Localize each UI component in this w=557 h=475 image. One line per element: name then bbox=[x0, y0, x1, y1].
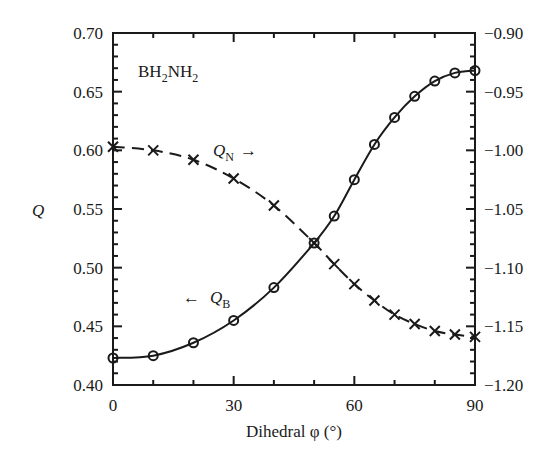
chart: 0.400.450.500.550.600.650.70 −1.20−1.15−… bbox=[0, 0, 557, 475]
molecule-part: NH bbox=[168, 62, 193, 81]
cross-marker-icon bbox=[369, 296, 379, 306]
arrow-right-icon: → bbox=[240, 141, 257, 160]
y-tick-label: 0.50 bbox=[73, 259, 103, 278]
y-right-tick-label: −1.20 bbox=[484, 376, 523, 395]
cross-marker-icon bbox=[269, 200, 279, 210]
series-label-qn: QN→ bbox=[213, 141, 257, 164]
y-right-tick-label: −1.00 bbox=[484, 141, 523, 160]
molecule-part: BH bbox=[138, 62, 162, 81]
y-right-tick-label: −0.95 bbox=[484, 83, 523, 102]
y-tick-label: 0.70 bbox=[73, 24, 103, 43]
cross-marker-icon bbox=[229, 173, 239, 183]
y-tick-label: 0.45 bbox=[73, 317, 103, 336]
x-tick-label: 60 bbox=[346, 396, 363, 415]
qb-main: Q bbox=[210, 288, 222, 307]
y-right-tick-label: −1.10 bbox=[484, 259, 523, 278]
x-tick-labels: 0306090 bbox=[109, 396, 484, 415]
series-line-q-n bbox=[113, 147, 475, 337]
y-tick-label: 0.65 bbox=[73, 83, 103, 102]
y-right-tick-label: −0.90 bbox=[484, 24, 523, 43]
molecule-subscript: 2 bbox=[192, 71, 198, 85]
cross-marker-icon bbox=[390, 310, 400, 320]
qb-sub: B bbox=[222, 297, 230, 311]
x-tick-label: 30 bbox=[225, 396, 242, 415]
y-right-tick-labels: −1.20−1.15−1.10−1.05−1.00−0.95−0.90 bbox=[484, 24, 523, 395]
plot-frame bbox=[113, 33, 475, 385]
y-right-tick-label: −1.05 bbox=[484, 200, 523, 219]
x-axis-title-text: Dihedral φ (°) bbox=[246, 422, 342, 441]
y-tick-labels: 0.400.450.500.550.600.650.70 bbox=[73, 24, 103, 395]
series-line-q-b bbox=[113, 71, 475, 358]
series-group bbox=[108, 66, 480, 362]
cross-marker-icon bbox=[188, 155, 198, 165]
cross-marker-icon bbox=[410, 319, 420, 329]
y-tick-label: 0.55 bbox=[73, 200, 103, 219]
y-right-tick-label: −1.15 bbox=[484, 317, 523, 336]
x-tick-label: 0 bbox=[109, 396, 118, 415]
y-tick-label: 0.60 bbox=[73, 141, 103, 160]
y-axis-title: Q bbox=[32, 201, 44, 220]
x-axis-title: Dihedral φ (°) bbox=[246, 422, 342, 441]
series-label-qb: ←QB bbox=[183, 288, 230, 311]
cross-marker-icon bbox=[349, 279, 359, 289]
y-tick-label: 0.40 bbox=[73, 376, 103, 395]
x-tick-label: 90 bbox=[467, 396, 484, 415]
cross-marker-icon bbox=[329, 259, 339, 269]
molecule-label: BH2NH2 bbox=[138, 62, 198, 85]
qn-main: Q bbox=[213, 141, 225, 160]
qn-sub: N bbox=[225, 150, 234, 164]
axis-ticks bbox=[113, 33, 475, 385]
arrow-left-icon: ← bbox=[183, 288, 200, 307]
